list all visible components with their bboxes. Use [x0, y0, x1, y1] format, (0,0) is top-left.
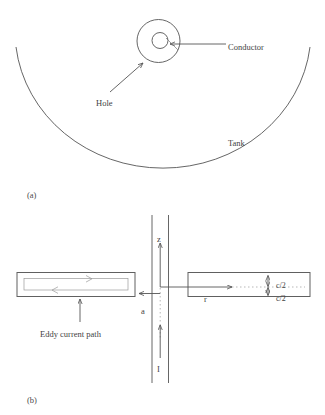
conductor-label: Conductor: [228, 36, 264, 54]
radius-a-label-text: a: [141, 306, 145, 316]
panel-a-graphics: [16, 20, 310, 169]
r-axis-label-text: r: [204, 294, 207, 304]
c-half-lower-label-text: c/2: [276, 294, 286, 303]
technical-diagram-svg: [0, 0, 325, 415]
tank-label: Tank: [228, 132, 245, 150]
eddy-current-path-label-text: Eddy current path: [40, 329, 101, 339]
panel-a-caption-text: (a): [27, 190, 36, 200]
eddy-current-path-label: Eddy current path: [40, 323, 101, 341]
tank-arc: [16, 47, 310, 168]
tank-label-text: Tank: [228, 138, 245, 148]
panel-b-graphics: [17, 215, 310, 383]
conductor-label-text: Conductor: [228, 42, 264, 52]
conductor-circle: [152, 33, 168, 49]
current-label: I: [157, 358, 160, 376]
hole-label: Hole: [96, 92, 113, 110]
c-half-lower-label: c/2: [276, 287, 286, 305]
left-plate-rect: [17, 273, 135, 297]
r-axis-label: r: [204, 288, 207, 306]
eddy-loop-rect: [24, 279, 128, 291]
z-axis-label: z: [157, 228, 161, 246]
panel-a-caption: (a): [27, 184, 36, 202]
current-label-text: I: [157, 364, 160, 374]
hole-leader-line: [110, 63, 143, 92]
panel-b-caption-text: (b): [27, 395, 37, 405]
radius-a-label: a: [141, 300, 145, 318]
hole-label-text: Hole: [96, 98, 113, 108]
panel-b-caption: (b): [27, 389, 37, 407]
figure-root: Conductor Hole Tank (a) z r a I c/2 c/2 …: [0, 0, 325, 415]
hole-circle: [137, 20, 180, 63]
z-axis-label-text: z: [157, 234, 161, 244]
